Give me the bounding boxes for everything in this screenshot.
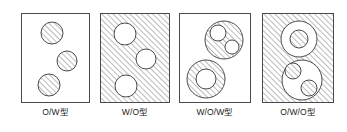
panel-w-o-w: W/O/W型 — [179, 13, 251, 117]
panel-label-w-o-w: W/O/W型 — [197, 107, 234, 117]
panel-box-w-o-w — [179, 13, 251, 103]
inner-droplet-o-w-o-1-1 — [301, 80, 317, 96]
panel-o-w: O/W型 — [21, 13, 90, 117]
panel-group: O/W型W/O型W/O/W型O/W/O型 — [0, 0, 347, 132]
panel-label-w-o: W/O型 — [122, 107, 148, 117]
panel-label-o-w: O/W型 — [42, 107, 68, 117]
inner-droplet-o-w-o-0-0 — [290, 30, 308, 48]
droplet-w-o-w-0 — [205, 21, 243, 59]
panel-box-o-w-o — [262, 13, 334, 103]
panel-label-o-w-o: O/W/O型 — [280, 107, 316, 117]
droplet-o-w-2 — [38, 74, 60, 96]
droplet-o-w-1 — [57, 51, 77, 71]
droplet-w-o-2 — [115, 75, 137, 97]
droplet-o-w-0 — [41, 22, 63, 44]
droplet-w-o-0 — [114, 23, 136, 45]
droplet-w-o-1 — [136, 49, 156, 69]
panel-canvas-w-o — [101, 14, 169, 102]
panel-w-o: W/O型 — [100, 13, 170, 117]
emulsion-type-figure: O/W型W/O型W/O/W型O/W/O型 — [0, 0, 347, 132]
panel-canvas-w-o-w — [180, 14, 250, 102]
panel-box-o-w — [21, 13, 90, 103]
panel-canvas-o-w — [22, 14, 89, 102]
inner-droplet-w-o-w-0-0 — [210, 25, 226, 41]
inner-droplet-w-o-w-0-1 — [225, 40, 239, 54]
panel-canvas-o-w-o — [263, 14, 333, 102]
panel-o-w-o: O/W/O型 — [262, 13, 334, 117]
panel-box-w-o — [100, 13, 170, 103]
inner-droplet-o-w-o-1-0 — [285, 63, 301, 79]
inner-droplet-w-o-w-1-0 — [196, 69, 216, 89]
